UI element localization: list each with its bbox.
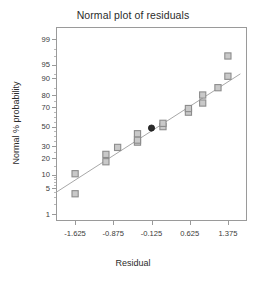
y-minor-tick-mark	[54, 197, 57, 198]
x-tick-mark	[190, 221, 191, 225]
y-tick-label: 20	[24, 154, 50, 163]
y-minor-tick-mark	[54, 56, 57, 57]
data-point[interactable]	[185, 105, 191, 111]
chart-container: Normal plot of residuals Normal % probab…	[0, 0, 266, 288]
data-point[interactable]	[72, 191, 78, 197]
y-minor-tick-mark	[54, 141, 57, 142]
y-tick-mark	[52, 78, 56, 79]
y-tick-label: 1	[24, 210, 50, 219]
y-minor-tick-mark	[54, 112, 57, 113]
data-point[interactable]	[200, 100, 206, 106]
y-minor-tick-mark	[54, 179, 57, 180]
data-point[interactable]	[160, 120, 166, 126]
y-minor-tick-mark	[54, 166, 57, 167]
y-minor-tick-mark	[54, 136, 57, 137]
data-point[interactable]	[103, 151, 109, 157]
data-point[interactable]	[200, 92, 206, 98]
y-minor-tick-mark	[54, 131, 57, 132]
y-minor-tick-mark	[54, 88, 57, 89]
y-tick-label: 90	[24, 74, 50, 83]
y-tick-mark	[52, 65, 56, 66]
y-tick-mark	[52, 188, 56, 189]
x-tick-mark	[113, 221, 114, 225]
y-minor-tick-mark	[54, 152, 57, 153]
normal-reference-line	[56, 74, 240, 193]
data-point[interactable]	[215, 85, 221, 91]
data-point[interactable]	[134, 131, 140, 137]
y-tick-label: 70	[24, 103, 50, 112]
y-tick-label: 30	[24, 142, 50, 151]
y-tick-label: 99	[24, 35, 50, 44]
y-tick-mark	[52, 175, 56, 176]
y-minor-tick-mark	[54, 182, 57, 183]
y-axis-label: Normal % probability	[11, 63, 21, 183]
data-point[interactable]	[115, 144, 121, 150]
y-tick-mark	[52, 158, 56, 159]
y-tick-mark	[52, 39, 56, 40]
x-axis-label: Residual	[0, 258, 266, 268]
x-tick-mark	[152, 221, 153, 225]
x-tick-mark	[228, 221, 229, 225]
x-tick-mark	[75, 221, 76, 225]
y-tick-label: 5	[24, 184, 50, 193]
y-tick-mark	[52, 214, 56, 215]
data-point[interactable]	[103, 159, 109, 165]
y-minor-tick-mark	[54, 204, 57, 205]
chart-title: Normal plot of residuals	[0, 9, 266, 21]
y-minor-tick-mark	[54, 185, 57, 186]
y-tick-label: 50	[24, 122, 50, 131]
y-tick-label: 80	[24, 91, 50, 100]
data-point[interactable]	[134, 137, 140, 143]
y-minor-tick-mark	[54, 101, 57, 102]
y-tick-mark	[52, 146, 56, 147]
y-minor-tick-mark	[54, 177, 57, 178]
data-point[interactable]	[225, 53, 231, 59]
plot-svg	[56, 27, 247, 221]
y-tick-mark	[52, 127, 56, 128]
data-point[interactable]	[225, 73, 231, 79]
y-minor-tick-mark	[54, 122, 57, 123]
data-point-highlighted[interactable]	[148, 125, 154, 131]
y-tick-label: 10	[24, 170, 50, 179]
plot-area	[56, 27, 247, 221]
y-minor-tick-mark	[54, 74, 57, 75]
y-tick-mark	[52, 107, 56, 108]
y-tick-mark	[52, 95, 56, 96]
y-minor-tick-mark	[54, 192, 57, 193]
y-minor-tick-mark	[54, 49, 57, 50]
x-tick-label: 1.375	[205, 229, 251, 238]
y-minor-tick-mark	[54, 117, 57, 118]
data-point[interactable]	[72, 171, 78, 177]
y-tick-label: 95	[24, 60, 50, 69]
